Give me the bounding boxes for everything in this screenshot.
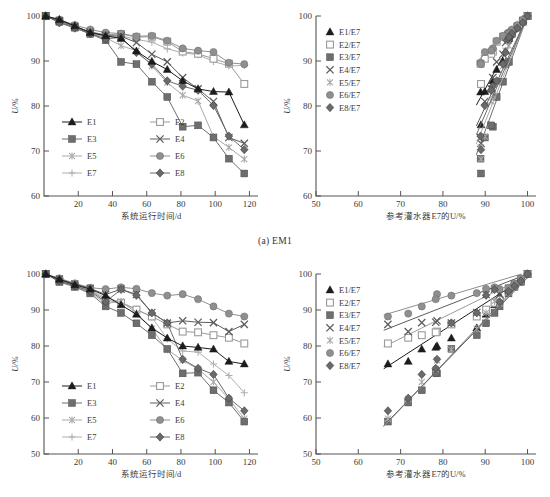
svg-text:80: 80 (176, 457, 186, 467)
panel-bottom-left: 506070809010020406080100120系统运行时间/dU/%E1… (0, 258, 280, 497)
legend-item-E8: E8/E7 (326, 361, 360, 371)
legend-item-E6: E6/E7 (326, 348, 360, 358)
svg-text:E1: E1 (87, 117, 96, 127)
svg-text:E5: E5 (87, 151, 96, 161)
svg-text:100: 100 (521, 457, 535, 467)
svg-text:E8: E8 (175, 432, 184, 442)
legend-item-E4: E4/E7 (326, 323, 360, 333)
svg-text:60: 60 (142, 457, 152, 467)
svg-text:60: 60 (142, 199, 152, 209)
legend-item-E2: E2 (150, 381, 184, 391)
svg-text:100: 100 (299, 11, 313, 21)
svg-text:90: 90 (31, 305, 41, 315)
legend-item-E1: E1 (62, 381, 96, 391)
legend-item-E1: E1/E7 (326, 27, 360, 37)
svg-text:E4/E7: E4/E7 (339, 323, 360, 333)
y-axis-label: U/% (10, 98, 20, 114)
legend-item-E8: E8 (150, 168, 184, 178)
chart-top-right: 607080901005060708090100参考灌水器E7的U/%U/%E1… (272, 0, 550, 235)
svg-text:50: 50 (31, 449, 41, 459)
legend-item-E7: E7 (62, 432, 96, 442)
svg-text:E5/E7: E5/E7 (339, 336, 360, 346)
svg-text:E8/E7: E8/E7 (339, 361, 360, 371)
svg-text:100: 100 (27, 11, 41, 21)
legend-item-E8: E8 (150, 432, 184, 442)
svg-text:20: 20 (74, 457, 84, 467)
svg-text:70: 70 (303, 146, 313, 156)
svg-text:50: 50 (312, 457, 322, 467)
figure-container: 6070809010020406080100120系统运行时间/dU/%E1E2… (0, 0, 550, 497)
svg-text:100: 100 (521, 199, 535, 209)
svg-text:E3/E7: E3/E7 (339, 310, 360, 320)
legend-item-E3: E3/E7 (327, 52, 361, 62)
svg-text:E8/E7: E8/E7 (339, 103, 360, 113)
legend-item-E5: E5 (62, 415, 96, 425)
svg-text:E4: E4 (175, 398, 185, 408)
svg-text:70: 70 (396, 199, 406, 209)
legend: E1E2E3E4E5E6E7E8 (62, 381, 185, 442)
svg-text:E2/E7: E2/E7 (339, 298, 360, 308)
legend-item-E6: E6/E7 (326, 90, 360, 100)
legend-item-E4: E4 (150, 398, 185, 408)
svg-text:90: 90 (303, 56, 313, 66)
svg-text:E6: E6 (175, 151, 184, 161)
svg-text:120: 120 (243, 199, 257, 209)
svg-text:E4: E4 (175, 134, 185, 144)
svg-text:E6/E7: E6/E7 (339, 348, 360, 358)
y-axis-label: U/% (282, 98, 292, 114)
svg-text:E7: E7 (87, 432, 96, 442)
svg-text:E6: E6 (175, 415, 184, 425)
x-axis-label: 参考灌水器E7的U/% (386, 469, 465, 479)
svg-text:70: 70 (31, 146, 41, 156)
svg-text:E4/E7: E4/E7 (339, 65, 360, 75)
y-axis-label: U/% (282, 356, 292, 372)
svg-text:40: 40 (108, 457, 118, 467)
legend-item-E2: E2 (150, 117, 184, 127)
svg-text:50: 50 (312, 199, 322, 209)
svg-text:E1: E1 (87, 381, 96, 391)
svg-text:20: 20 (74, 199, 84, 209)
svg-text:80: 80 (303, 101, 313, 111)
svg-text:70: 70 (31, 377, 41, 387)
svg-text:E1/E7: E1/E7 (339, 285, 360, 295)
svg-text:100: 100 (208, 199, 222, 209)
chart-top-left: 6070809010020406080100120系统运行时间/dU/%E1E2… (0, 0, 280, 235)
legend-item-E1: E1/E7 (326, 285, 360, 295)
legend: E1E2E3E4E5E6E7E8 (62, 117, 185, 178)
legend-item-E7: E7 (62, 168, 96, 178)
legend-item-E6: E6 (150, 415, 184, 425)
series-E4 (42, 12, 248, 147)
series-E8 (42, 12, 248, 154)
series-E6 (42, 270, 248, 320)
svg-text:90: 90 (303, 305, 313, 315)
svg-text:40: 40 (108, 199, 118, 209)
legend-item-E2: E2/E7 (327, 298, 361, 308)
panel-bottom-right: 50607080901005060708090100参考灌水器E7的U/%U/%… (272, 258, 550, 497)
legend-item-E1: E1 (62, 117, 96, 127)
chart-bottom-right: 50607080901005060708090100参考灌水器E7的U/%U/%… (272, 258, 550, 497)
svg-text:80: 80 (438, 199, 448, 209)
svg-text:90: 90 (481, 199, 491, 209)
legend-item-E3: E3 (62, 134, 96, 144)
svg-text:100: 100 (208, 457, 222, 467)
legend-item-E5: E5/E7 (327, 78, 360, 88)
x-axis-label: 系统运行时间/d (121, 211, 182, 221)
svg-text:80: 80 (303, 341, 313, 351)
series-E1 (42, 270, 249, 367)
svg-text:60: 60 (354, 457, 364, 467)
svg-text:70: 70 (303, 377, 313, 387)
svg-text:E3/E7: E3/E7 (339, 52, 360, 62)
svg-text:80: 80 (176, 199, 186, 209)
legend-item-E3: E3 (62, 398, 96, 408)
svg-text:80: 80 (31, 341, 41, 351)
svg-text:E8: E8 (175, 168, 184, 178)
svg-text:E3: E3 (87, 398, 96, 408)
svg-text:E7: E7 (87, 168, 96, 178)
legend: E1/E7E2/E7E3/E7E4/E7E5/E7E6/E7E8/E7 (326, 27, 360, 113)
svg-text:60: 60 (31, 191, 41, 201)
svg-text:60: 60 (303, 413, 313, 423)
svg-text:100: 100 (299, 269, 313, 279)
svg-text:E1/E7: E1/E7 (339, 27, 360, 37)
svg-text:100: 100 (27, 269, 41, 279)
svg-text:E2: E2 (175, 117, 184, 127)
